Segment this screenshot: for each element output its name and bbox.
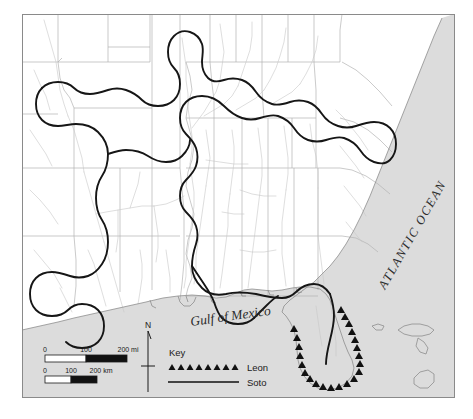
historical-route-map: Gulf of Mexico ATLANTIC OCEAN N 0 100 20… bbox=[0, 0, 473, 419]
key-label-soto: Soto bbox=[247, 377, 267, 388]
north-arrow-label: N bbox=[145, 320, 151, 330]
scale-km-tick-200: 200 km bbox=[90, 367, 113, 374]
scale-km-tick-0: 0 bbox=[43, 367, 47, 374]
scale-miles-tick-0: 0 bbox=[43, 346, 47, 353]
key-title: Key bbox=[169, 347, 186, 358]
key-label-leon: Leon bbox=[247, 362, 268, 373]
scale-miles-tick-100: 100 bbox=[80, 346, 92, 353]
scale-km-tick-100: 100 bbox=[65, 367, 77, 374]
scale-miles-tick-200: 200 mi bbox=[117, 346, 138, 353]
